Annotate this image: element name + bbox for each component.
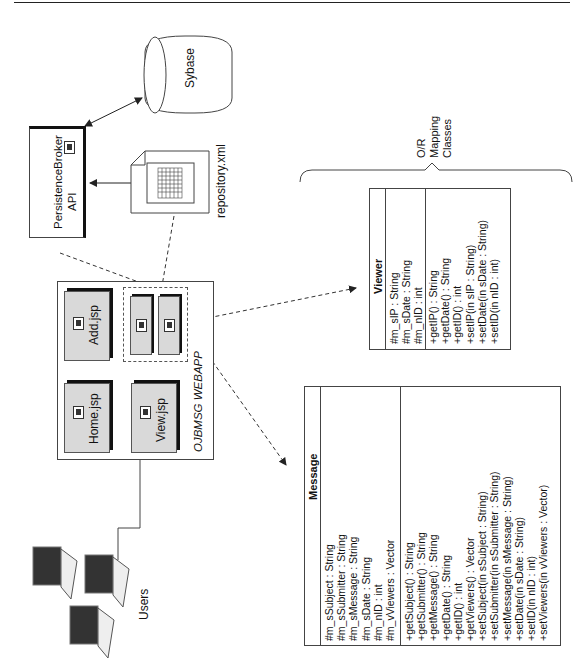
attribute: #m_sDate : String (400, 260, 412, 344)
om-label-line2: Mapping (428, 116, 441, 158)
message-methods: +getSubject() : String +getSubmitter() :… (403, 471, 549, 641)
method: +getMessage() : String (427, 471, 439, 641)
jsp-view[interactable]: View.jsp (131, 383, 177, 453)
method: +setSubject(in sSubject : String) (476, 471, 488, 641)
jsp-home[interactable]: Home.jsp (64, 383, 110, 453)
database-label: Sybase (183, 48, 197, 88)
webapp-container: Add.jsp Home.jsp View.jsp OJBMSG WEBAPP (57, 281, 214, 460)
attribute: #m_sIP : String (388, 260, 400, 344)
om-label: O/R Mapping Classes (415, 116, 454, 158)
method: +setSubmitter(in sSubmitter : String) (488, 471, 500, 641)
method: +getID() : int (451, 220, 463, 344)
viewer-attributes: #m_sIP : String #m_sDate : String #m_nID… (388, 260, 425, 344)
jsp-icon (140, 406, 151, 419)
broker-label-line2: API (66, 192, 78, 211)
message-class-name: Message (307, 454, 319, 500)
method: +setID(in nID : int) (525, 471, 537, 641)
attribute: #m_nID : int (372, 534, 384, 641)
method: +setID(in nID : int) (488, 220, 500, 344)
method: +getSubject() : String (403, 471, 415, 641)
method: +getDate() : String (440, 471, 452, 641)
om-label-line1: O/R (415, 116, 428, 158)
persistence-broker-box: PersistenceBroker API (29, 126, 86, 238)
method: +getViewers() : Vector (464, 471, 476, 641)
jsp-home-label: Home.jsp (87, 393, 101, 444)
viewer-class-name: Viewer (372, 259, 384, 294)
users-label: Users (137, 589, 151, 620)
jsp-view-label: View.jsp (154, 398, 168, 442)
attribute: #m_nID : int (412, 260, 424, 344)
class-component (130, 296, 152, 355)
method: +setDate(in sDate : String) (476, 220, 488, 344)
jsp-icon (73, 317, 84, 330)
method: +setViewers(in vViewers : Vector) (537, 471, 549, 641)
method: +setMessage(in sMessage : String) (501, 471, 513, 641)
method: +getID() : int (452, 471, 464, 641)
webapp-label: OJBMSG WEBAPP (192, 351, 204, 452)
method: +getDate() : String (439, 220, 451, 344)
component-icon (164, 319, 175, 332)
method: +getIP() : String (427, 220, 439, 344)
attribute: #m_sMessage : String (347, 534, 359, 641)
attribute: #m_sSubject : String (323, 534, 335, 641)
laptop-icons (33, 547, 129, 658)
viewer-methods: +getIP() : String +getDate() : String +g… (427, 220, 500, 344)
method: +getSubmitter() : String (415, 471, 427, 641)
broker-label-line1: PersistenceBroker (52, 135, 64, 229)
class-component (158, 296, 180, 355)
method: +setDate(in sDate : String) (513, 471, 525, 641)
component-icon (64, 141, 75, 154)
component-icon (136, 319, 147, 332)
jsp-add-label: Add.jsp (87, 305, 101, 345)
viewer-class: Viewer #m_sIP : String #m_sDate : String… (369, 188, 511, 350)
jsp-icon (73, 406, 84, 419)
attribute: #m_sDate : String (360, 534, 372, 641)
method: +setIP(in sIP : String) (464, 220, 476, 344)
repository-label: repository.xml (214, 144, 228, 218)
message-class: Message #m_sSubject : String #m_sSubmitt… (304, 386, 561, 646)
message-attributes: #m_sSubject : String #m_sSubmitter : Str… (323, 534, 396, 641)
om-label-line3: Classes (441, 116, 454, 158)
attribute: #m_sSubmitter : String (335, 534, 347, 641)
attribute: #m_vViewers : Vector (384, 534, 396, 641)
jsp-add[interactable]: Add.jsp (64, 291, 110, 361)
mapping-classes-group (123, 287, 188, 362)
